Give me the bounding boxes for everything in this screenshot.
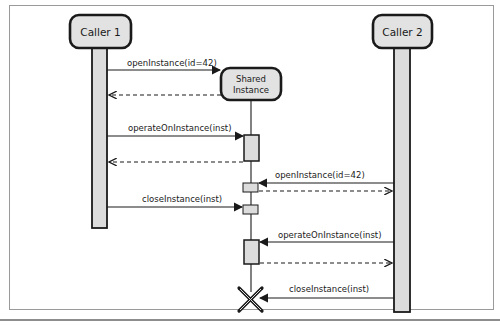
bottom-rule bbox=[0, 319, 500, 321]
message-operate-caller1: operateOnInstance(inst) bbox=[107, 123, 243, 136]
svg-text:openInstance(id=42): openInstance(id=42) bbox=[127, 58, 217, 68]
caller1-head: Caller 1 bbox=[70, 15, 131, 48]
message-close-instance-caller2: closeInstance(inst) bbox=[260, 284, 394, 298]
sequence-diagram: Caller 1 Caller 2 Shared Instance openIn… bbox=[0, 0, 500, 325]
message-close-instance-caller1: closeInstance(inst) bbox=[107, 194, 242, 207]
svg-text:openInstance(id=42): openInstance(id=42) bbox=[275, 170, 365, 180]
caller2-head: Caller 2 bbox=[373, 15, 432, 48]
caller2-label: Caller 2 bbox=[382, 26, 422, 38]
shared-label-line1: Shared bbox=[236, 74, 266, 84]
message-open-instance-caller2: openInstance(id=42) bbox=[259, 170, 394, 183]
shared-instance-head: Shared Instance bbox=[221, 68, 281, 100]
activation-box-3 bbox=[243, 205, 258, 214]
svg-text:closeInstance(inst): closeInstance(inst) bbox=[142, 194, 222, 204]
message-operate-caller2: operateOnInstance(inst) bbox=[260, 230, 394, 242]
activation-box-2 bbox=[243, 183, 258, 192]
activation-box-1 bbox=[244, 135, 259, 161]
caller1-lifeline bbox=[92, 48, 107, 228]
caller2-lifeline bbox=[394, 48, 410, 312]
shared-label-line2: Instance bbox=[233, 85, 269, 95]
svg-text:operateOnInstance(inst): operateOnInstance(inst) bbox=[128, 123, 231, 133]
message-open-instance-caller1: openInstance(id=42) bbox=[107, 58, 220, 70]
svg-text:closeInstance(inst): closeInstance(inst) bbox=[289, 284, 369, 294]
activation-box-4 bbox=[244, 240, 259, 264]
caller1-label: Caller 1 bbox=[80, 26, 120, 38]
svg-text:operateOnInstance(inst): operateOnInstance(inst) bbox=[278, 230, 381, 240]
